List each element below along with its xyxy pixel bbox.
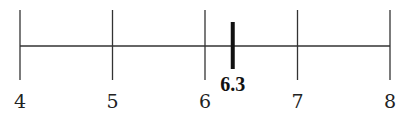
tick-label: 4 [14,90,26,112]
marker-label: 6.3 [220,73,245,95]
tick-group: 45678 [14,10,396,112]
number-line: 45678 6.3 [0,0,408,115]
tick-label: 8 [384,90,396,112]
tick-label: 6 [199,90,211,112]
tick-label: 7 [291,90,303,112]
tick-label: 5 [106,90,118,112]
